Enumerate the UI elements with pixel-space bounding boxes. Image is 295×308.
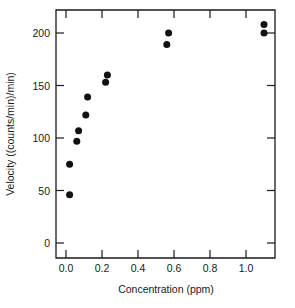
x-tick-label-4: 0.8 <box>203 262 218 274</box>
data-point <box>82 111 89 118</box>
x-axis-label: Concentration (ppm) <box>118 283 214 295</box>
x-tick-label-5: 1.0 <box>239 262 254 274</box>
y-axis-label: Velocity ((counts/min)/min) <box>4 72 16 196</box>
data-point <box>261 21 268 28</box>
x-tick-label-1: 0.2 <box>95 262 110 274</box>
data-point <box>163 41 170 48</box>
y-tick-label-2: 100 <box>32 132 50 144</box>
y-tick-label-1: 50 <box>38 185 50 197</box>
y-tick-label-4: 200 <box>32 27 50 39</box>
y-tick-label-0: 0 <box>44 237 50 249</box>
x-tick-label-3: 0.6 <box>167 262 182 274</box>
data-point <box>66 191 73 198</box>
x-tick-label-0: 0.0 <box>59 262 74 274</box>
y-tick-label-3: 150 <box>32 80 50 92</box>
data-point <box>102 79 109 86</box>
scatter-chart: 0.0 0.2 0.4 0.6 0.8 1.0 0 50 100 150 200… <box>0 0 295 308</box>
data-point <box>261 30 268 37</box>
data-point <box>104 72 111 79</box>
data-point <box>66 161 73 168</box>
data-point <box>165 30 172 37</box>
data-point <box>73 138 80 145</box>
x-tick-label-2: 0.4 <box>131 262 146 274</box>
data-point <box>84 94 91 101</box>
data-point <box>75 127 82 134</box>
